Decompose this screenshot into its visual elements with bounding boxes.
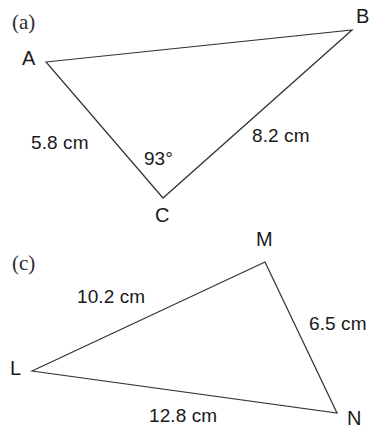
geometry-figure: (a) A B C 5.8 cm 8.2 cm 93° (c) L M N 10… (0, 0, 387, 439)
vertex-label-m: M (256, 229, 273, 249)
side-length-ac: 5.8 cm (31, 133, 89, 152)
triangle-abc-outline (46, 30, 352, 198)
side-length-lm: 10.2 cm (77, 287, 145, 306)
vertex-label-c: C (155, 205, 169, 225)
vertex-label-n: N (347, 408, 361, 428)
triangle-lmn-outline (32, 262, 337, 413)
vertex-label-a: A (22, 48, 35, 68)
side-length-ln: 12.8 cm (149, 406, 217, 425)
side-length-cb: 8.2 cm (252, 126, 310, 145)
triangle-abc-shape (0, 0, 387, 439)
angle-label-c: 93° (144, 149, 173, 168)
side-length-mn: 6.5 cm (309, 314, 367, 333)
part-label-c: (c) (12, 253, 35, 274)
part-label-a: (a) (12, 12, 35, 33)
vertex-label-b: B (356, 6, 369, 26)
vertex-label-l: L (10, 358, 21, 378)
